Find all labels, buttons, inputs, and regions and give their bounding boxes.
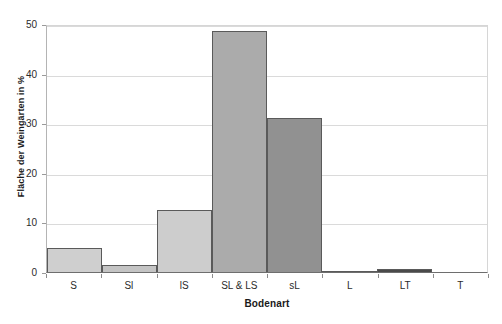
x-axis-tick-label: SL & LS: [212, 278, 267, 296]
bar-slot: [322, 26, 377, 272]
x-axis-tick-label: sL: [267, 278, 322, 296]
y-axis-tick-labels: 01020304050: [0, 0, 43, 324]
bar-slot: [102, 26, 157, 272]
x-axis-tick-label: lS: [157, 278, 212, 296]
bar: [212, 31, 267, 272]
chart-title-remnant: [84, 0, 484, 4]
x-axis-title: Bodenart: [46, 298, 488, 309]
bar: [47, 248, 102, 272]
bar-slot: [212, 26, 267, 272]
x-axis-tick-label: L: [322, 278, 377, 296]
bar: [377, 269, 432, 272]
bar: [322, 271, 377, 272]
bar: [267, 118, 322, 272]
x-axis-tick-label: S: [46, 278, 101, 296]
y-axis-tick-label: 40: [26, 69, 37, 81]
y-axis-tick-label: 30: [26, 118, 37, 130]
y-axis-tick-label: 10: [26, 217, 37, 229]
bar-slot: [267, 26, 322, 272]
bar-slot: [432, 26, 487, 272]
bar-series: [47, 26, 487, 272]
x-axis-tick-labels: SSllSSL & LSsLLLTT: [46, 278, 488, 296]
y-axis-tick-label: 0: [31, 267, 37, 279]
bar-slot: [47, 26, 102, 272]
x-axis-tick-label: Sl: [101, 278, 156, 296]
y-axis-tick-label: 20: [26, 168, 37, 180]
bar: [157, 210, 212, 272]
bar-chart: Fläche der Weingärten in % 01020304050 S…: [0, 0, 502, 324]
x-axis-tick-mark: [488, 274, 489, 278]
bar-slot: [157, 26, 212, 272]
x-axis-tick-label: LT: [378, 278, 433, 296]
y-axis-tick-label: 50: [26, 19, 37, 31]
bar: [102, 265, 157, 272]
plot-area: [46, 25, 488, 273]
bar-slot: [377, 26, 432, 272]
x-axis-tick-label: T: [433, 278, 488, 296]
